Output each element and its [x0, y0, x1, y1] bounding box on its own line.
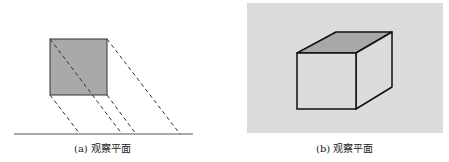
figure-a-caption: (a) 观察平面	[74, 140, 131, 155]
figure-a-diagram	[14, 39, 193, 134]
projected-square	[50, 39, 107, 95]
cube-front-face	[297, 53, 356, 109]
figure-b-caption: (b) 观察平面	[316, 140, 373, 155]
figure-canvas	[0, 0, 449, 162]
figure-b-diagram	[247, 3, 443, 133]
